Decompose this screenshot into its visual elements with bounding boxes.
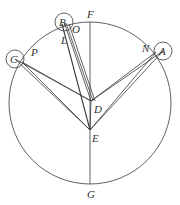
label-c: C	[10, 53, 18, 65]
line-p-e	[22, 62, 90, 130]
label-o: O	[72, 23, 80, 35]
label-n: N	[141, 42, 150, 54]
label-p: P	[30, 46, 38, 58]
label-l: L	[60, 34, 67, 46]
label-f: F	[86, 8, 94, 20]
label-e: E	[91, 132, 99, 144]
line-p-d	[22, 62, 91, 101]
label-d: D	[93, 103, 102, 115]
line-a-e	[90, 51, 163, 130]
label-b: B	[59, 16, 66, 28]
label-a: A	[158, 45, 166, 57]
line-o-d	[69, 24, 95, 101]
line-n-e	[90, 52, 156, 130]
label-g: G	[87, 188, 95, 200]
geometry-diagram: F B O L C P N A D E G	[0, 0, 180, 205]
line-a-d	[91, 51, 163, 101]
